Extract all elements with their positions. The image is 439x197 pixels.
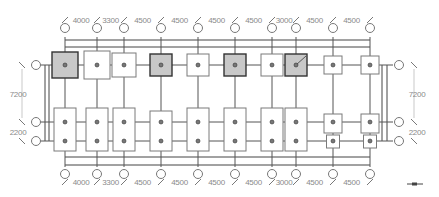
foundation-plan-drawing: 4000330045004500450045003000450045004000… [0,0,439,197]
column-dot [159,120,163,124]
column-dot [331,139,335,143]
footing [150,111,172,151]
dim-tick [367,179,373,185]
axis-bubble-bottom-1 [61,170,70,179]
axis-bubble-bottom-8 [292,170,301,179]
column-dot [63,120,67,124]
dim-tick [94,179,100,185]
side-dimension-label: 7200 [10,90,27,99]
axis-bubble-bottom-3 [120,170,129,179]
axis-bubble-bottom-10 [366,170,375,179]
dim-tick [19,138,25,144]
dim-tick [158,179,164,185]
column-dot [233,120,237,124]
column-dot [331,120,335,124]
dim-tick [293,17,299,23]
column-dot [122,139,126,143]
dim-tick [269,17,275,23]
dim-tick [330,179,336,185]
column-dot [122,63,126,67]
dim-tick [232,179,238,185]
footing [261,108,283,151]
column-dot [294,139,298,143]
dim-tick [62,179,68,185]
column-dot [63,139,67,143]
footing [187,108,209,151]
footing [86,108,108,151]
column-dot [331,63,335,67]
footing [54,108,76,151]
bottom-dimension-label: 3000 [276,178,293,187]
column-dot [233,63,237,67]
axis-bubble-bottom-9 [329,170,338,179]
column-dot [270,63,274,67]
dim-tick [195,17,201,23]
dim-tick [269,179,275,185]
column-dot [196,63,200,67]
axis-bubble-top-2 [93,24,102,33]
axis-bubble-top-9 [329,24,338,33]
top-dimension-label: 4500 [208,16,225,25]
bottom-dimension-label: 4500 [343,178,360,187]
axis-bubble-top-8 [292,24,301,33]
bottom-dimension-label: 4500 [134,178,151,187]
bottom-dimension-label: 4500 [171,178,188,187]
footings [52,51,379,151]
footing [113,108,135,151]
column-dot [122,120,126,124]
top-dimension-label: 4500 [306,16,323,25]
axis-bubble-bottom-4 [157,170,166,179]
axis-bubble-top-6 [231,24,240,33]
axis-bubble-top-4 [157,24,166,33]
side-dimension-label: 2200 [10,128,27,137]
column-dot [196,120,200,124]
dim-tick [367,17,373,23]
top-dimension-label: 4500 [245,16,262,25]
dim-tick [62,17,68,23]
dim-tick [411,62,417,68]
axis-bubble-left-3 [32,137,41,146]
column-dot [159,139,163,143]
top-dimension-label: 4000 [73,16,90,25]
dim-tick [121,17,127,23]
dim-tick [411,138,417,144]
column-dot [196,139,200,143]
scale-bar-icon [407,183,423,186]
bottom-dimension-label: 4000 [73,178,90,187]
column-dot [368,63,372,67]
axis-bubble-left-2 [32,118,41,127]
axis-bubble-top-3 [120,24,129,33]
axis-bubble-left-1 [32,61,41,70]
dimension-labels: 4000330045004500450045003000450045004000… [10,16,426,187]
column-dot [159,63,163,67]
top-dimension-label: 4500 [134,16,151,25]
dim-tick [94,17,100,23]
bottom-dimension-label: 4500 [306,178,323,187]
column-dot [294,63,298,67]
axis-bubble-top-10 [366,24,375,33]
dim-tick [330,17,336,23]
axis-bubble-top-1 [61,24,70,33]
side-dimension-label: 7200 [409,90,426,99]
dim-tick [293,179,299,185]
axis-bubble-top-5 [194,24,203,33]
footing [285,108,307,151]
dim-tick [195,179,201,185]
footing [224,108,246,151]
axis-bubble-bottom-5 [194,170,203,179]
column-dot [63,63,67,67]
column-dot [270,120,274,124]
dim-tick [19,62,25,68]
column-dot [368,139,372,143]
dim-tick [158,17,164,23]
column-dot [95,120,99,124]
dim-tick [121,179,127,185]
bottom-dimension-label: 4500 [208,178,225,187]
top-dimension-label: 3300 [102,16,119,25]
axis-bubble-right-3 [395,137,404,146]
column-dot [95,139,99,143]
column-dot [368,120,372,124]
column-dot [233,139,237,143]
axis-bubble-right-2 [395,118,404,127]
column-dot [294,120,298,124]
